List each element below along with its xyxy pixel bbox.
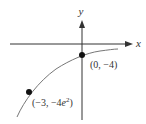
graph-figure: x y (0, −4) (−3, −4e2) — [0, 0, 146, 124]
point-y-intercept — [79, 52, 85, 58]
y-axis — [79, 20, 85, 120]
point-x-neg3-label: (−3, −4e2) — [32, 96, 73, 109]
y-axis-arrow-icon — [79, 20, 85, 28]
y-axis-label: y — [78, 5, 84, 17]
x-axis — [10, 41, 133, 47]
graph-svg: x y (0, −4) (−3, −4e2) — [0, 0, 146, 124]
point-y-intercept-label: (0, −4) — [90, 59, 117, 71]
x-axis-label: x — [135, 37, 141, 49]
point-x-neg3 — [26, 89, 32, 95]
x-axis-arrow-icon — [125, 41, 133, 47]
